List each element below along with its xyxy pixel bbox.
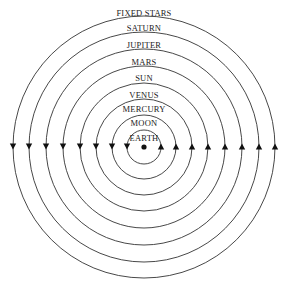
arrow-down-icon [109,144,115,150]
arrow-down-icon [26,144,32,150]
arrow-down-icon [60,144,66,150]
arrow-down-icon [77,144,83,150]
arrow-up-icon [272,144,278,150]
arrow-up-icon [158,144,164,150]
arrow-up-icon [189,144,195,150]
label-sun: SUN [135,73,153,83]
label-fixed-stars: FIXED STARS [116,8,171,18]
arrow-down-icon [10,144,16,150]
arrow-up-icon [173,144,179,150]
label-mars: MARS [132,57,157,67]
label-venus: VENUS [129,90,158,100]
arrow-down-icon [43,144,49,150]
arrow-down-icon [93,144,99,150]
label-mercury: MERCURY [123,104,166,114]
label-earth: EARTH [130,133,159,143]
label-jupiter: JUPITER [127,40,162,50]
label-saturn: SATURN [127,23,161,33]
label-moon: MOON [131,118,158,128]
arrow-down-icon [124,144,130,150]
sphere-labels: FIXED STARS SATURN JUPITER MARS SUN VENU… [116,8,171,143]
arrow-up-icon [256,144,262,150]
earth-dot [141,144,146,149]
arrow-up-icon [222,144,228,150]
arrow-up-icon [239,144,245,150]
geocentric-diagram: FIXED STARS SATURN JUPITER MARS SUN VENU… [0,0,290,283]
arrow-up-icon [205,144,211,150]
